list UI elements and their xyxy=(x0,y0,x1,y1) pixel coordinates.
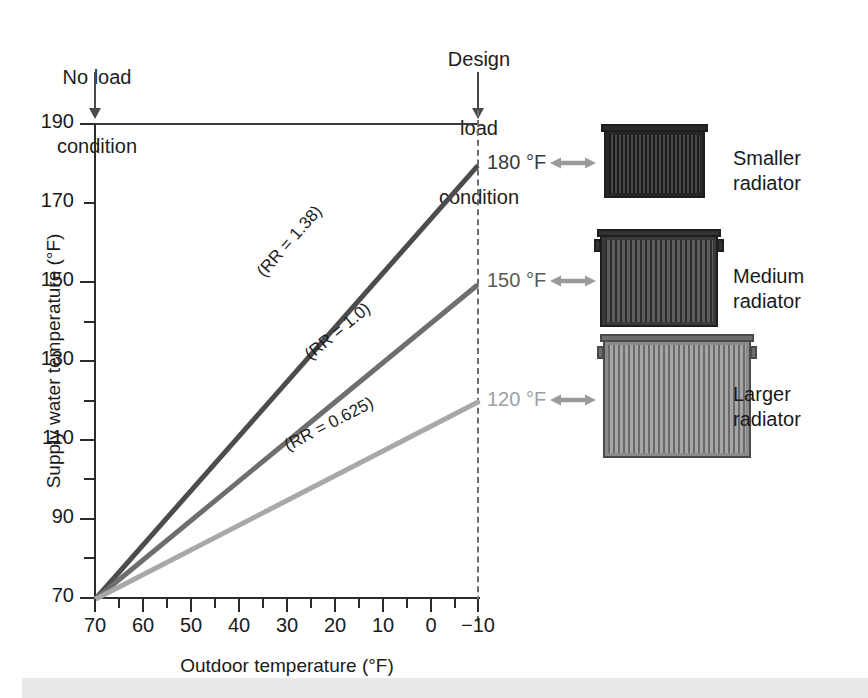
x-tick-label-minus10: −10 xyxy=(456,614,500,637)
no-load-condition-line2: condition xyxy=(28,135,166,158)
no-load-condition-line1: No load xyxy=(28,66,166,89)
radiator-smaller-body xyxy=(604,130,705,198)
x-tick-label-70: 70 xyxy=(73,614,117,637)
x-tick-60 xyxy=(142,599,144,612)
no-load-arrow-head-icon xyxy=(89,108,101,119)
y-tick-80b-minor xyxy=(84,557,94,559)
radiator-smaller-label: Smaller radiator xyxy=(733,146,801,196)
bottom-band xyxy=(22,678,868,698)
x-tick-70 xyxy=(94,599,96,612)
x-tick-30 xyxy=(286,599,288,612)
endpoint-temp-150: 150 °F xyxy=(487,269,546,292)
x-tick-10 xyxy=(382,599,384,612)
design-load-dashed-line xyxy=(477,110,479,622)
y-tick-90 xyxy=(80,518,94,520)
design-load-condition-line2: load xyxy=(409,117,549,140)
y-tick-label-190: 190 xyxy=(18,110,74,133)
x-tick-minus10 xyxy=(477,599,479,612)
y-tick-110 xyxy=(80,439,94,441)
y-axis-title: Supply water temperature (°F) xyxy=(43,211,65,511)
x-tick-label-20: 20 xyxy=(313,614,357,637)
radiator-larger-label: Larger radiator xyxy=(733,382,801,432)
radiator-medium-label-line2: radiator xyxy=(733,289,804,314)
radiator-larger-label-line1: Larger xyxy=(733,382,801,407)
radiator-smaller-image xyxy=(604,130,705,198)
x-tick-25-minor xyxy=(310,599,312,608)
radiator-larger-fins xyxy=(608,345,746,453)
no-load-arrow-stem xyxy=(94,72,96,110)
y-axis-line xyxy=(94,123,96,599)
x-tick-15-minor xyxy=(358,599,360,608)
x-tick-35-minor xyxy=(262,599,264,608)
radiator-larger-image xyxy=(603,340,751,458)
x-tick-label-60: 60 xyxy=(121,614,165,637)
radiator-medium-cap-right xyxy=(717,239,724,252)
x-tick-55-minor xyxy=(166,599,168,608)
boiler-limit-190-line xyxy=(95,123,478,125)
chart-figure: No load condition Design load condition … xyxy=(0,0,868,698)
double-arrow-icon-smaller xyxy=(550,156,596,170)
x-tick-5-minor xyxy=(406,599,408,608)
y-tick-180-minor xyxy=(84,202,94,204)
x-tick-65-minor xyxy=(118,599,120,608)
y-tick-140-minor xyxy=(84,321,94,323)
endpoint-temp-180: 180 °F xyxy=(487,151,546,174)
y-tick-190 xyxy=(80,123,94,125)
series-label-rr-1-0: (RR = 1.0) xyxy=(301,299,375,365)
y-tick-120-minor xyxy=(84,400,94,402)
double-arrow-icon-medium xyxy=(550,274,596,288)
y-tick-100-minor xyxy=(84,478,94,480)
radiator-medium-fins xyxy=(605,240,713,322)
x-axis-title: Outdoor temperature (°F) xyxy=(95,655,479,677)
endpoint-temp-120: 120 °F xyxy=(487,388,546,411)
radiator-medium-label-line1: Medium xyxy=(733,264,804,289)
y-tick-70 xyxy=(80,597,94,599)
design-load-condition-line3: condition xyxy=(409,186,549,209)
x-tick-0 xyxy=(430,599,432,612)
radiator-medium-image xyxy=(600,235,718,327)
y-tick-label-70: 70 xyxy=(18,584,74,607)
x-tick-20 xyxy=(334,599,336,612)
x-tick-50 xyxy=(190,599,192,612)
design-load-arrow-stem xyxy=(477,72,479,110)
x-tick-minus5-minor xyxy=(454,599,456,608)
radiator-larger-label-line2: radiator xyxy=(733,407,801,432)
x-tick-label-30: 30 xyxy=(265,614,309,637)
y-tick-label-170: 170 xyxy=(18,189,74,212)
radiator-smaller-label-line1: Smaller xyxy=(733,146,801,171)
x-tick-label-0: 0 xyxy=(409,614,453,637)
x-tick-40 xyxy=(238,599,240,612)
radiator-smaller-label-line2: radiator xyxy=(733,171,801,196)
double-arrow-icon-larger xyxy=(550,393,596,407)
radiator-medium-label: Medium radiator xyxy=(733,264,804,314)
x-tick-label-40: 40 xyxy=(217,614,261,637)
x-tick-45-minor xyxy=(214,599,216,608)
radiator-medium-body xyxy=(600,235,718,327)
series-line-rr-0-625 xyxy=(94,399,481,602)
radiator-larger-cap-right xyxy=(750,346,757,359)
series-label-rr-1-38: (RR = 1.38) xyxy=(253,202,326,281)
y-tick-170 xyxy=(80,281,94,283)
radiator-larger-body xyxy=(603,340,751,458)
radiator-smaller-fins xyxy=(609,135,700,193)
x-tick-label-10: 10 xyxy=(361,614,405,637)
y-tick-130 xyxy=(80,360,94,362)
design-load-condition-line1: Design xyxy=(409,48,549,71)
x-tick-label-50: 50 xyxy=(169,614,213,637)
